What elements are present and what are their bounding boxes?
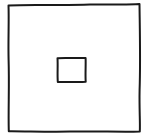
inner-rectangle	[58, 58, 86, 82]
outer-square	[8, 4, 140, 132]
sketch-canvas	[0, 0, 148, 137]
sketch-svg	[0, 0, 148, 137]
